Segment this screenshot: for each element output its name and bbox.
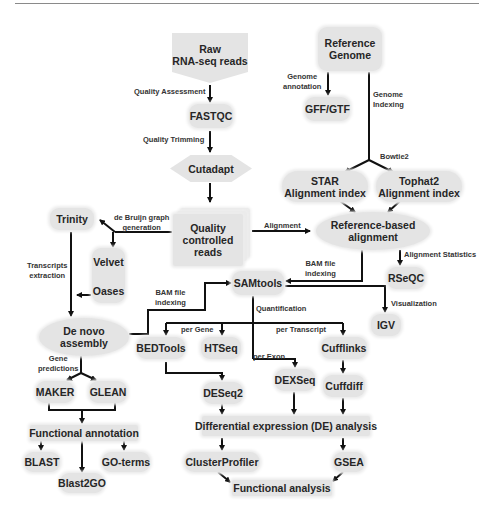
de-bruijn-label: de Bruijn graph generation (114, 213, 169, 233)
gsea-node: GSEA (333, 452, 365, 472)
raw-reads-label: Raw RNA-seq reads (172, 43, 247, 67)
deseq2-node: DESeq2 (203, 382, 243, 404)
velvet-label: Velvet (93, 256, 123, 268)
bam-indexing-left-label: BAM file indexing (155, 288, 186, 308)
cutadapt-label: Cutadapt (188, 163, 234, 175)
maker-label: MAKER (36, 386, 75, 398)
genome-indexing-label: Genome Indexing (373, 90, 404, 110)
clusterprofiler-label: ClusterProfiler (186, 456, 259, 468)
visualization-label: Visualization (391, 299, 437, 309)
gff-gtf-label: GFF/GTF (305, 103, 350, 115)
de-novo-assembly-node: De novo assembly (39, 318, 129, 356)
star-index-node: STAR Alignment index (282, 171, 368, 202)
bowtie2-label: Bowtie2 (380, 152, 409, 162)
tophat2-index-node: Tophat2 Alignment index (376, 171, 462, 202)
quantification-label: Quantification (256, 304, 306, 314)
oases-label: Oases (93, 285, 125, 297)
rseqc-node: RSeQC (387, 267, 425, 289)
bedtools-label: BEDTools (136, 342, 185, 354)
cufflinks-label: Cufflinks (322, 342, 367, 354)
gff-gtf-node: GFF/GTF (305, 97, 350, 121)
cuffdiff-node: Cuffdiff (323, 375, 365, 397)
de-novo-assembly-label: De novo assembly (60, 325, 108, 349)
blast2go-node: Blast2GO (60, 473, 104, 493)
bedtools-node: BEDTools (137, 337, 185, 359)
go-terms-label: GO-terms (102, 456, 150, 468)
deseq2-label: DESeq2 (203, 387, 243, 399)
trinity-node: Trinity (50, 208, 94, 230)
genome-annotation-label: Genome annotation (283, 72, 321, 92)
dexseq-label: DEXSeq (275, 374, 316, 386)
de-analysis-label: Differential expression (DE) analysis (195, 420, 377, 432)
functional-annotation-node: Functional annotation (30, 425, 138, 441)
clusterprofiler-node: ClusterProfiler (184, 452, 260, 472)
fastqc-label: FASTQC (190, 110, 233, 122)
go-terms-node: GO-terms (102, 452, 150, 472)
quality-controlled-reads-label: Quality controlled reads (183, 222, 234, 258)
gene-predictions-label: Gene predictions (38, 354, 78, 374)
transcripts-extraction-label: Transcripts extraction (27, 261, 67, 281)
bam-indexing-right-label: BAM file indexing (305, 259, 336, 279)
quality-controlled-reads-node: Quality controlled reads (173, 214, 243, 266)
cufflinks-node: Cufflinks (321, 337, 367, 359)
cuffdiff-label: Cuffdiff (325, 380, 362, 392)
functional-annotation-label: Functional annotation (29, 427, 139, 439)
samtools-label: SAMtools (234, 277, 282, 289)
htseq-label: HTSeq (204, 342, 237, 354)
functional-analysis-label: Functional analysis (233, 482, 330, 494)
functional-analysis-node: Functional analysis (232, 480, 332, 496)
tophat2-index-label: Tophat2 Alignment index (378, 175, 460, 199)
reference-genome-node: Reference Genome (318, 27, 382, 71)
per-gene-label: per Gene (181, 325, 214, 335)
per-transcript-label: per Transcript (276, 325, 326, 335)
quality-trimming-label: Quality Trimming (143, 135, 204, 145)
blast-label: BLAST (25, 456, 60, 468)
reference-alignment-node: Reference-based alignment (316, 212, 430, 250)
reference-alignment-label: Reference-based alignment (331, 219, 416, 243)
reference-genome-label: Reference Genome (325, 37, 376, 61)
dexseq-node: DEXSeq (275, 369, 315, 391)
velvet-oases-node: Velvet Oases (92, 248, 125, 303)
per-exon-label: per Exon (253, 352, 285, 362)
alignment-statistics-label: Alignment Statistics (404, 250, 476, 260)
blast-node: BLAST (24, 452, 60, 472)
igv-label: IGV (377, 319, 395, 331)
de-analysis-node: Differential expression (DE) analysis (202, 416, 370, 436)
samtools-node: SAMtools (232, 271, 284, 295)
fastqc-node: FASTQC (189, 104, 233, 128)
blast2go-label: Blast2GO (58, 477, 106, 489)
trinity-label: Trinity (56, 213, 88, 225)
glean-label: GLEAN (90, 386, 127, 398)
gsea-label: GSEA (334, 456, 364, 468)
rseqc-label: RSeQC (388, 272, 424, 284)
igv-node: IGV (371, 314, 401, 336)
glean-node: GLEAN (89, 381, 127, 403)
maker-node: MAKER (36, 381, 74, 403)
quality-assessment-label: Quality Assessment (134, 87, 205, 97)
alignment-label: Alignment (264, 221, 301, 231)
star-index-label: STAR Alignment index (284, 175, 366, 199)
htseq-node: HTSeq (201, 337, 241, 359)
